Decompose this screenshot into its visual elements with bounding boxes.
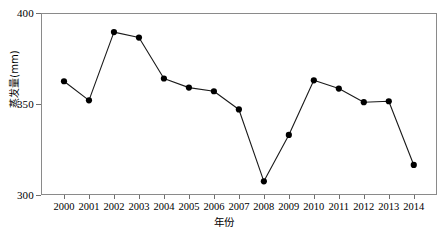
y-tick-mark [36, 104, 41, 105]
data-point [136, 34, 142, 40]
x-tick-label: 2014 [394, 201, 434, 212]
data-point [336, 85, 342, 91]
y-tick-label: 300 [8, 190, 34, 201]
x-tick-mark [189, 195, 190, 199]
data-point [211, 88, 217, 94]
data-point [186, 85, 192, 91]
data-point [161, 75, 167, 81]
x-tick-mark [139, 195, 140, 199]
plot-data-layer [41, 13, 437, 195]
y-tick-mark [36, 13, 41, 14]
data-point [386, 98, 392, 104]
x-tick-mark [414, 195, 415, 199]
y-axis-title: 蒸发量(mm) [10, 34, 20, 124]
x-tick-mark [289, 195, 290, 199]
data-point [111, 29, 117, 35]
data-point [311, 77, 317, 83]
y-tick-mark [36, 195, 41, 196]
x-tick-mark [114, 195, 115, 199]
x-tick-mark [264, 195, 265, 199]
data-point [61, 78, 67, 84]
x-tick-mark [339, 195, 340, 199]
x-tick-mark [314, 195, 315, 199]
x-tick-mark [164, 195, 165, 199]
data-point [86, 97, 92, 103]
x-tick-mark [239, 195, 240, 199]
x-tick-mark [364, 195, 365, 199]
data-point [411, 162, 417, 168]
evaporation-line-chart: 400350300 蒸发量(mm) 2000200120022003200420… [0, 0, 447, 237]
data-point [261, 178, 267, 184]
x-axis-title: 年份 [0, 217, 447, 228]
x-tick-mark [214, 195, 215, 199]
x-tick-mark [64, 195, 65, 199]
data-point [361, 99, 367, 105]
x-tick-mark [389, 195, 390, 199]
data-marker-group [61, 29, 417, 184]
data-point [286, 132, 292, 138]
x-tick-mark [89, 195, 90, 199]
data-point [236, 106, 242, 112]
y-tick-label: 400 [8, 8, 34, 19]
